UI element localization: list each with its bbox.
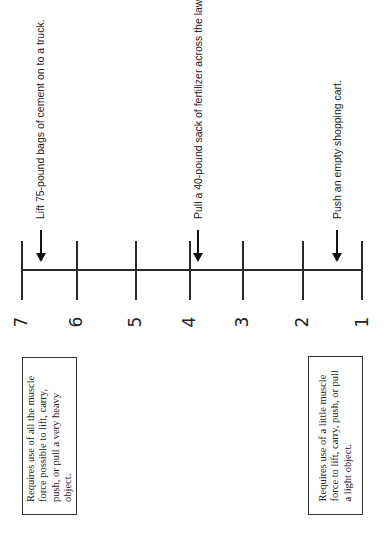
scale-label-1: 1 [352,312,372,332]
low-level-descriptor-text: Requires use of a little muscle force to… [317,370,355,502]
scale-tick-7 [21,241,23,300]
scale-tick-4 [189,241,191,300]
high-level-descriptor-text: Requires use of all the muscle force pos… [25,370,75,502]
scale-label-7: 7 [11,312,31,332]
scale-tick-3 [242,241,244,300]
rating-scale-figure: 7 6 5 4 3 2 1 Lift 75-pound bags of ceme… [0,0,387,557]
scale-label-2: 2 [292,312,312,332]
scale-label-5: 5 [125,312,145,332]
scale-label-6: 6 [66,312,86,332]
arrow-down-icon [193,253,203,262]
scale-label-3: 3 [232,312,252,332]
scale-label-4: 4 [179,312,199,332]
scale-tick-6 [76,241,78,300]
high-level-descriptor-box: Requires use of all the muscle force pos… [22,357,77,515]
anchor-text-7: Lift 75-pound bags of cement on to a tru… [34,19,46,219]
scale-axis-line [21,269,363,271]
anchor-text-4: Pull a 40-pound sack of fertilizer acros… [192,0,204,219]
scale-tick-1 [361,241,363,300]
arrow-down-icon [332,253,342,262]
arrow-down-icon [36,253,46,262]
scale-tick-5 [135,241,137,300]
anchor-text-1: Push an empty shopping cart. [331,80,343,219]
scale-tick-2 [302,241,304,300]
low-level-descriptor-box: Requires use of a little muscle force to… [308,356,363,515]
